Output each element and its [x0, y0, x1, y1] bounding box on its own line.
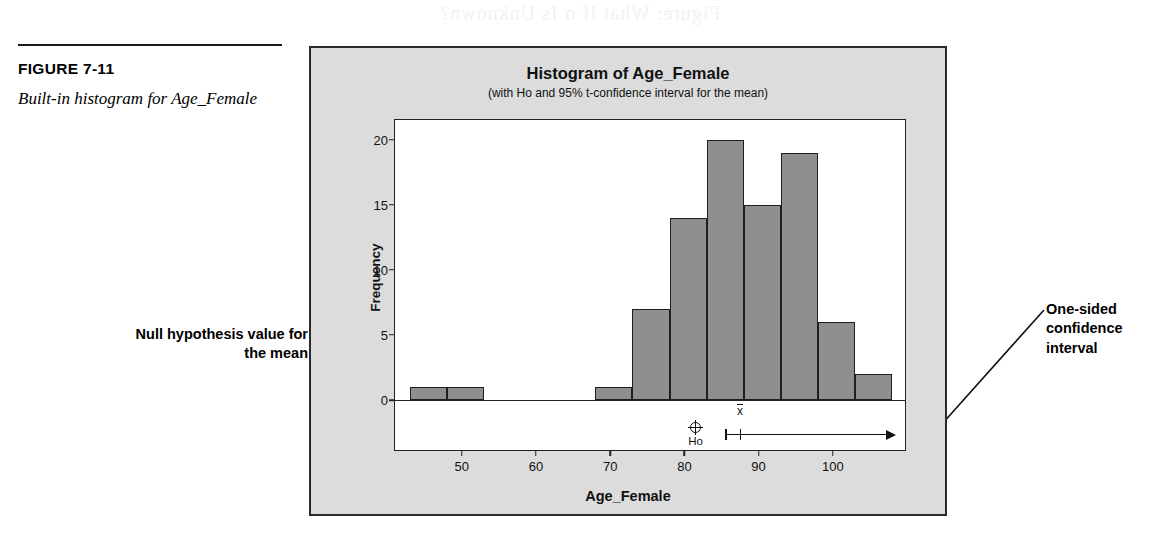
histogram-bar: [632, 309, 669, 400]
histogram-bar: [707, 140, 744, 400]
sample-mean-marker-label: x: [737, 404, 743, 418]
histogram-bar: [447, 387, 484, 400]
x-tick-label: 50: [455, 459, 469, 474]
histogram-chart-panel: Histogram of Age_Female (with Ho and 95%…: [309, 46, 947, 516]
histogram-bar: [818, 322, 855, 400]
x-tick-mark: [461, 450, 463, 456]
page-bleed-through-text: Figure: What If σ Is Unknown?: [300, 2, 860, 30]
histogram-bar: [595, 387, 632, 400]
null-hypothesis-marker-label: Ho: [676, 435, 716, 447]
histogram-bar: [670, 218, 707, 400]
y-tick-label: 20: [374, 132, 388, 147]
y-tick-mark: [389, 139, 395, 141]
chart-title: Histogram of Age_Female: [311, 64, 945, 83]
y-tick-label: 5: [381, 327, 388, 342]
y-tick-mark: [389, 204, 395, 206]
plot-area: Frequency 05101520 5060708090100 Ho x: [394, 119, 906, 451]
x-tick-mark: [535, 450, 537, 456]
x-tick-mark: [832, 450, 834, 456]
confidence-interval-mean-tick: [740, 429, 741, 440]
x-tick-label: 70: [603, 459, 617, 474]
crossed-circle-icon: [690, 422, 701, 433]
y-tick-mark: [389, 269, 395, 271]
x-tick-label: 80: [677, 459, 691, 474]
x-tick-mark: [684, 450, 686, 456]
y-tick-mark: [389, 334, 395, 336]
y-axis-title: Frequency: [368, 243, 383, 311]
x-tick-label: 100: [822, 459, 844, 474]
confidence-interval-line: [725, 434, 888, 435]
histogram-bar: [744, 205, 781, 400]
histogram-bar: [781, 153, 818, 400]
histogram-bar: [410, 387, 447, 400]
baseline-axis: [395, 400, 905, 401]
x-axis-title: Age_Female: [311, 488, 945, 504]
figure-number: FIGURE 7-11: [18, 60, 300, 78]
annotation-null-hypothesis: Null hypothesis value for the mean: [118, 325, 308, 364]
x-tick-label: 60: [529, 459, 543, 474]
x-tick-mark: [609, 450, 611, 456]
figure-description: Built-in histogram for Age_Female: [18, 87, 300, 110]
y-tick-label: 0: [381, 393, 388, 408]
y-tick-label: 10: [374, 262, 388, 277]
chart-subtitle: (with Ho and 95% t-confidence interval f…: [311, 86, 945, 100]
annotation-one-sided-confidence-interval: One-sided confidence interval: [1046, 300, 1154, 358]
histogram-bar: [855, 374, 892, 400]
x-tick-mark: [758, 450, 760, 456]
y-tick-label: 15: [374, 197, 388, 212]
figure-caption-block: FIGURE 7-11 Built-in histogram for Age_F…: [18, 44, 300, 110]
null-hypothesis-marker: Ho: [676, 422, 716, 447]
confidence-interval-lower-cap: [725, 429, 726, 440]
x-tick-label: 90: [751, 459, 765, 474]
confidence-interval-arrow-icon: [886, 430, 896, 440]
caption-rule-divider: [18, 44, 282, 46]
